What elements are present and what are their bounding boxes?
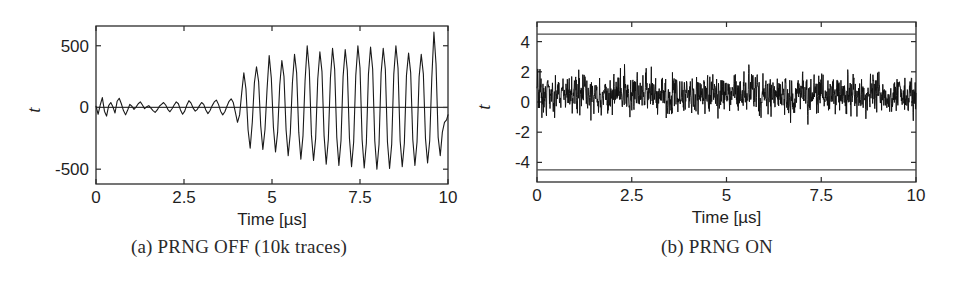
y-tick-label: 500 bbox=[61, 37, 89, 56]
y-axis-label: t bbox=[23, 107, 44, 113]
plot-area-prng-on: 02.557.510-4-2024Time [µs]t bbox=[478, 0, 956, 236]
x-axis-label: Time [µs] bbox=[237, 210, 307, 229]
panel-prng-on: 02.557.510-4-2024Time [µs]t (b) PRNG ON bbox=[478, 0, 956, 291]
figure-root: 02.557.510-5000500Time [µs]t (a) PRNG OF… bbox=[0, 0, 956, 291]
x-tick-label: 0 bbox=[91, 188, 100, 207]
y-tick-label: 2 bbox=[521, 63, 530, 82]
y-tick-label: -4 bbox=[515, 153, 530, 172]
data-trace bbox=[96, 32, 448, 169]
x-tick-label: 0 bbox=[532, 186, 541, 205]
x-tick-label: 5 bbox=[267, 188, 276, 207]
y-tick-label: -500 bbox=[55, 160, 89, 179]
x-tick-label: 2.5 bbox=[620, 186, 644, 205]
y-axis-label: t bbox=[478, 104, 494, 110]
y-tick-label: 0 bbox=[80, 98, 89, 117]
y-tick-label: -2 bbox=[515, 123, 530, 142]
x-tick-label: 10 bbox=[907, 186, 926, 205]
data-trace bbox=[537, 64, 916, 124]
plot-area-prng-off: 02.557.510-5000500Time [µs]t bbox=[0, 0, 478, 236]
y-tick-label: 0 bbox=[521, 93, 530, 112]
x-axis-label: Time [µs] bbox=[692, 208, 762, 227]
panel-a-caption: (a) PRNG OFF (10k traces) bbox=[0, 236, 478, 258]
x-tick-label: 7.5 bbox=[348, 188, 372, 207]
y-tick-label: 4 bbox=[521, 33, 530, 52]
panel-b-caption: (b) PRNG ON bbox=[478, 236, 956, 258]
x-tick-label: 5 bbox=[722, 186, 731, 205]
x-tick-label: 7.5 bbox=[809, 186, 833, 205]
x-tick-label: 2.5 bbox=[172, 188, 196, 207]
x-tick-label: 10 bbox=[439, 188, 458, 207]
panel-prng-off: 02.557.510-5000500Time [µs]t (a) PRNG OF… bbox=[0, 0, 478, 291]
